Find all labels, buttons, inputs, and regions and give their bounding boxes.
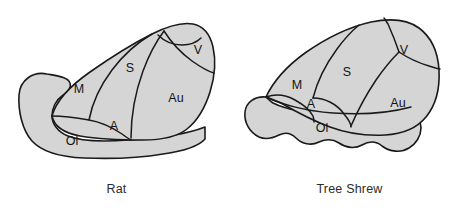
shrew-label-ol: Ol [316, 121, 329, 135]
shrew-label-m: M [292, 78, 302, 92]
shrew-label-a: A [307, 97, 316, 111]
shrew-label-v: V [400, 43, 409, 57]
panel-rat: M S V Au A Ol Rat [0, 0, 233, 212]
panel-tree-shrew: M S V Au A Ol Tree Shrew [233, 0, 466, 212]
shrew-label-au: Au [390, 96, 405, 110]
shrew-label-s: S [343, 65, 351, 79]
rat-label-v: V [194, 43, 203, 57]
rat-label-s: S [126, 61, 134, 75]
rat-label-m: M [74, 82, 84, 96]
rat-label-ol: Ol [66, 134, 79, 148]
rat-brain-diagram: M S V Au A Ol [0, 0, 233, 180]
caption-rat: Rat [0, 182, 233, 196]
tree-shrew-brain-diagram: M S V Au A Ol [233, 0, 466, 180]
caption-tree-shrew: Tree Shrew [233, 182, 466, 196]
rat-label-a: A [110, 119, 119, 133]
rat-label-au: Au [168, 91, 183, 105]
comparative-brain-figure: M S V Au A Ol Rat [0, 0, 466, 212]
